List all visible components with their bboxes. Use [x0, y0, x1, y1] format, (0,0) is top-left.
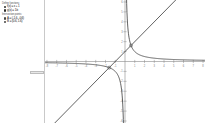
x-tick-label: -7 — [56, 64, 59, 68]
x-tick-label: -1 — [114, 64, 117, 68]
x-tick-label: -3 — [95, 64, 98, 68]
x-tick-label: 3 — [154, 64, 156, 68]
y-tick-label: 3 — [121, 30, 123, 34]
expression-text: B = (0.6, 1.6) — [7, 20, 22, 24]
x-tick-label: 1 — [134, 64, 136, 68]
y-tick-label: 5 — [121, 10, 123, 14]
expression-group-functions: Define functions: f(x) = x + 1 g(x) = 1/… — [2, 2, 43, 12]
x-tick-label: 4 — [163, 64, 165, 68]
expression-panel[interactable]: Define functions: f(x) = x + 1 g(x) = 1/… — [0, 0, 45, 123]
x-tick-label: 5 — [173, 64, 175, 68]
y-tick-label: -6 — [120, 119, 123, 123]
x-tick-label: 7 — [193, 64, 195, 68]
x-tick-label: 2 — [144, 64, 146, 68]
x-tick-label: -5 — [75, 64, 78, 68]
x-tick-label: 8 — [202, 64, 204, 68]
y-tick-label: 6 — [121, 0, 123, 4]
bullet-icon — [4, 9, 7, 12]
point-marker-icon — [4, 21, 7, 24]
coordinate-plot: -8-7-6-5-4-3-2-112345678-6-5-4-3-2-11234… — [45, 0, 205, 123]
x-tick-label: -6 — [65, 64, 68, 68]
point-marker-icon — [4, 17, 7, 20]
y-tick-label: -1 — [120, 69, 123, 73]
y-tick-label: 1 — [121, 50, 123, 54]
expression-group-points: Intersection points: A = (-1.6, -0.6) B … — [2, 13, 43, 23]
expression-row[interactable]: B = (0.6, 1.6) — [4, 20, 44, 24]
x-tick-label: -8 — [46, 64, 49, 68]
graph-canvas[interactable]: -8-7-6-5-4-3-2-112345678-6-5-4-3-2-11234… — [45, 0, 205, 123]
x-tick-label: 6 — [183, 64, 185, 68]
series-hyperbola-branch — [126, 0, 205, 60]
expression-row[interactable]: g(x) = 1/x — [4, 9, 44, 13]
panel-resize-handle[interactable] — [30, 71, 44, 74]
y-tick-label: 2 — [121, 40, 123, 44]
y-tick-label: 4 — [121, 20, 123, 24]
expression-text: g(x) = 1/x — [7, 9, 18, 13]
graphing-calculator: Define functions: f(x) = x + 1 g(x) = 1/… — [0, 0, 205, 123]
